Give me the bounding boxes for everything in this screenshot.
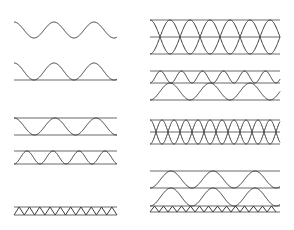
flute-wave: [14, 118, 117, 135]
profile-double-wave-crossing: [150, 20, 280, 54]
profile-triple-wall: [150, 171, 280, 212]
flute-wave: [150, 188, 280, 206]
flute-wave: [14, 207, 117, 215]
profile-single-face: [14, 63, 117, 80]
flute-wave: [150, 206, 276, 212]
profile-micro-flute: [14, 207, 117, 215]
left-column-profiles: [14, 22, 117, 215]
flute-wave: [14, 63, 117, 80]
flute-wave: [150, 71, 280, 83]
profile-single-wall-small-flute: [14, 151, 117, 164]
flute-wave: [14, 22, 117, 38]
flute-wave: [150, 83, 280, 100]
profile-double-wall-crossing: [150, 120, 280, 144]
profile-double-wall: [150, 71, 280, 100]
profile-fluting-only: [14, 22, 117, 38]
flute-wave: [150, 171, 280, 188]
profile-single-wall: [14, 118, 117, 135]
diagram-canvas: [0, 0, 294, 230]
flute-wave: [14, 151, 117, 164]
right-column-profiles: [150, 20, 280, 212]
corrugated-profiles-diagram: Corrugated board cross-section profiles: [0, 0, 294, 230]
